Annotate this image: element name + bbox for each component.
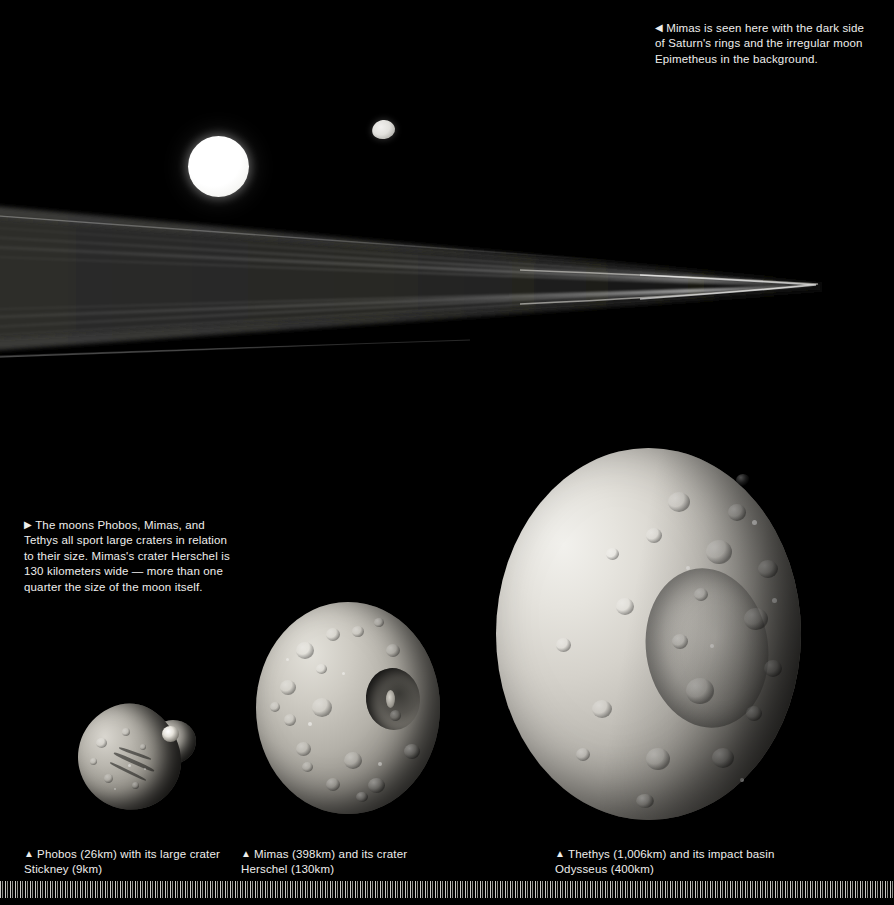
mimas-moon [256, 602, 442, 816]
stickney-crater [162, 726, 179, 742]
page-root: ◀Mimas is seen here with the dark side o… [0, 0, 894, 905]
footer-tick-strip [0, 881, 894, 898]
herschel-central-peak [386, 690, 395, 708]
tethys-moon [496, 448, 804, 822]
caption-phobos: ▲Phobos (26km) with its large crater Sti… [24, 846, 239, 878]
caption-mimas: ▲Mimas (398km) and its crater Herschel (… [241, 846, 456, 878]
moon-comparison-row [0, 430, 894, 835]
caption-text: Mimas (398km) and its crater Herschel (1… [241, 848, 407, 876]
triangle-left-icon: ◀ [655, 22, 663, 33]
caption-text: Thethys (1,006km) and its impact basin O… [555, 848, 774, 876]
caption-tethys: ▲Thethys (1,006km) and its impact basin … [555, 846, 795, 878]
triangle-up-icon: ▲ [24, 848, 34, 859]
caption-text: Mimas is seen here with the dark side of… [655, 22, 864, 65]
phobos-moon [78, 698, 198, 810]
mimas-distant-sphere [188, 136, 249, 197]
caption-mimas-rings: ◀Mimas is seen here with the dark side o… [655, 20, 870, 67]
caption-text: Phobos (26km) with its large crater Stic… [24, 848, 220, 876]
triangle-up-icon: ▲ [241, 848, 251, 859]
triangle-up-icon: ▲ [555, 848, 565, 859]
